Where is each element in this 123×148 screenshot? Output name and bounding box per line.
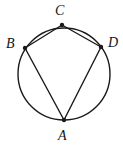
circumscribed-circle	[18, 28, 110, 120]
vertex-label-d: D	[108, 36, 118, 50]
vertex-label-b: B	[6, 37, 15, 51]
vertex-label-c: C	[55, 4, 64, 18]
segment-DA	[64, 47, 101, 120]
vertex-point-d	[99, 45, 103, 49]
geometry-canvas	[0, 0, 123, 148]
segment-AB	[25, 48, 64, 120]
vertex-point-b	[23, 46, 27, 50]
segment-BC	[25, 25, 62, 48]
geometry-figure: A B C D	[0, 0, 123, 148]
vertex-label-a: A	[58, 129, 67, 143]
vertex-point-a	[62, 118, 66, 122]
segment-CD	[62, 25, 101, 47]
vertex-point-c	[60, 23, 64, 27]
